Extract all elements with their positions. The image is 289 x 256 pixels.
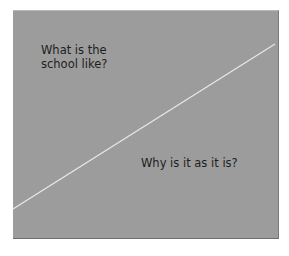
question-what-label: What is the school like? bbox=[41, 43, 131, 71]
diagram-box: What is the school like? Why is it as it… bbox=[13, 10, 279, 239]
question-why-label: Why is it as it is? bbox=[141, 156, 238, 170]
